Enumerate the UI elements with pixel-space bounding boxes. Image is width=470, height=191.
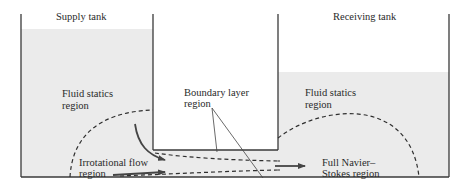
receiving-tank-label: Receiving tank [333,11,396,23]
fluid-statics-right-label-line2: region [305,99,332,111]
irrotational-label-line2: region [79,168,106,180]
fluid-statics-right-label-line1: Fluid statics [305,87,356,99]
fluid-statics-left-label-line2: region [62,100,89,112]
supply-tank-label: Supply tank [56,11,106,23]
navier-stokes-label-line2: Stokes region [322,168,379,180]
boundary-layer-label-line2: region [184,98,211,110]
fluid-statics-left-label-line1: Fluid statics [62,88,113,100]
